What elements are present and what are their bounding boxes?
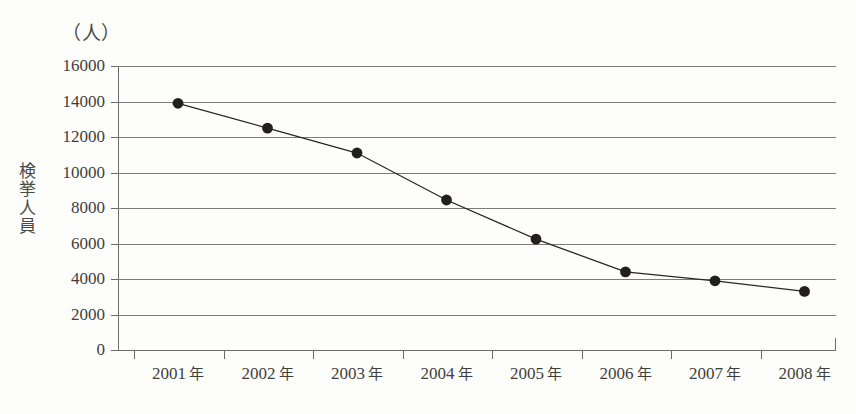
data-point-marker: [352, 148, 363, 159]
x-axis-tick: [403, 350, 404, 359]
y-axis-tick-label: 8000: [71, 198, 105, 218]
x-axis-tick-label: 2004年: [421, 362, 473, 384]
plot-area: 0200040006000800010000120001400016000 20…: [118, 66, 836, 350]
data-point-marker: [173, 98, 184, 109]
x-axis-tick: [671, 350, 672, 359]
y-axis-tick-label: 4000: [71, 269, 105, 289]
y-axis-tick: [111, 137, 118, 138]
x-axis-tick-label: 2001年: [152, 362, 204, 384]
y-axis-tick: [111, 208, 118, 209]
data-point-marker: [531, 234, 542, 245]
y-axis-title: 検 挙 人 員: [14, 163, 40, 236]
y-axis-tick: [111, 173, 118, 174]
y-axis-tick: [111, 244, 118, 245]
y-axis-tick-label: 10000: [63, 163, 106, 183]
x-axis-tick: [761, 350, 762, 359]
x-axis-tick-label: 2003年: [331, 362, 383, 384]
data-point-marker: [441, 195, 452, 206]
x-axis-tick-label: 2002年: [242, 362, 294, 384]
series-line: [178, 103, 805, 291]
y-axis-title-char: 検: [14, 163, 40, 181]
x-axis-tick: [492, 350, 493, 359]
series-markers: [173, 98, 810, 297]
x-axis-tick: [313, 350, 314, 359]
y-axis-tick: [111, 350, 118, 351]
y-axis-tick-label: 2000: [71, 305, 105, 325]
chart-page: （人） 検 挙 人 員 0200040006000800010000120001…: [0, 0, 856, 414]
y-axis-tick-label: 0: [97, 340, 106, 360]
y-axis-tick: [111, 279, 118, 280]
y-axis-tick-label: 12000: [63, 127, 106, 147]
y-axis-title-char: 員: [14, 218, 40, 236]
data-point-marker: [620, 267, 631, 278]
y-axis-title-char: 人: [14, 200, 40, 218]
y-axis-tick-label: 6000: [71, 234, 105, 254]
unit-label: （人）: [62, 18, 121, 45]
y-axis-tick: [111, 315, 118, 316]
y-axis-title-char: 挙: [14, 181, 40, 199]
x-axis-tick: [134, 350, 135, 359]
y-axis-tick-label: 14000: [63, 92, 106, 112]
x-axis-tick: [582, 350, 583, 359]
x-axis-tick-label: 2008年: [779, 362, 831, 384]
x-axis-tick-label: 2005年: [510, 362, 562, 384]
x-axis-tick-label: 2007年: [689, 362, 741, 384]
data-point-marker: [799, 286, 810, 297]
y-axis-tick: [111, 102, 118, 103]
data-point-marker: [262, 123, 273, 134]
data-series: [118, 66, 836, 351]
x-axis-tick: [224, 350, 225, 359]
y-axis-tick-label: 16000: [63, 56, 106, 76]
data-point-marker: [710, 275, 721, 286]
x-axis-tick-label: 2006年: [600, 362, 652, 384]
y-axis-tick: [111, 66, 118, 67]
